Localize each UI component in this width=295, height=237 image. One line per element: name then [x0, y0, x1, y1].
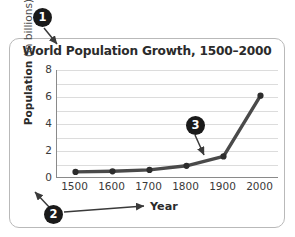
chart-title: World Population Growth, 1500–2000: [9, 44, 285, 58]
x-tick-label: 1700: [135, 180, 162, 192]
callout-marker-2[interactable]: 2: [44, 205, 63, 224]
data-point-1700[interactable]: [146, 167, 152, 173]
y-tick-label: 6: [26, 90, 52, 102]
y-tick-label: 4: [26, 117, 52, 129]
x-tick-label: 1800: [172, 180, 199, 192]
x-axis-ticks: 150016001700180019002000: [56, 180, 278, 196]
y-axis-label-units: (in billions): [22, 0, 34, 57]
data-point-1500[interactable]: [72, 169, 78, 175]
figure-root: World Population Growth, 1500–2000 Popul…: [0, 0, 295, 237]
data-point-1800[interactable]: [183, 163, 189, 169]
callout-marker-1[interactable]: 1: [33, 8, 52, 27]
callout-marker-3[interactable]: 3: [186, 116, 205, 135]
y-tick-label: 8: [26, 63, 52, 75]
data-point-2000[interactable]: [257, 93, 263, 99]
y-axis-ticks: 86420: [24, 70, 52, 178]
data-point-1600[interactable]: [109, 168, 115, 174]
y-tick-label: 2: [26, 144, 52, 156]
x-tick-label: 1900: [209, 180, 236, 192]
x-tick-label: 1500: [61, 180, 88, 192]
data-series-line: [57, 70, 279, 178]
series-polyline: [76, 96, 261, 172]
data-point-1900[interactable]: [220, 153, 226, 159]
plot-area: [56, 70, 278, 178]
x-tick-label: 2000: [246, 180, 273, 192]
x-tick-label: 1600: [98, 180, 125, 192]
y-tick-label: 0: [26, 171, 52, 183]
x-axis-label: Year: [150, 200, 178, 213]
